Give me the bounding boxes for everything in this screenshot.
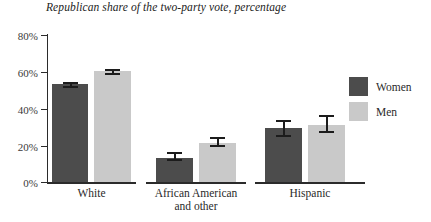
legend-item-women: Women bbox=[349, 74, 411, 99]
y-tick-20 bbox=[41, 146, 47, 147]
legend: Women Men bbox=[349, 74, 411, 124]
y-tick-40 bbox=[41, 109, 47, 110]
baseline-white bbox=[47, 182, 136, 184]
bar-hispanic-women bbox=[265, 34, 302, 182]
bar-rect bbox=[199, 143, 236, 182]
bar-rect bbox=[156, 158, 193, 182]
y-tick-80 bbox=[41, 35, 47, 36]
legend-label-women: Women bbox=[376, 81, 411, 93]
errorbar-stem bbox=[283, 120, 285, 136]
category-label-line1: Hispanic bbox=[255, 187, 365, 200]
bar-white-men bbox=[94, 34, 131, 182]
category-label-line1: African American bbox=[141, 187, 251, 200]
errorbar-stem bbox=[217, 137, 219, 146]
category-label-white: White bbox=[47, 187, 136, 200]
legend-label-men: Men bbox=[376, 106, 397, 118]
bar-rect bbox=[308, 125, 345, 182]
errorbar-stem bbox=[174, 152, 176, 160]
plot-area: 80% 60% 40% 20% 0% bbox=[0, 0, 431, 222]
legend-swatch-men bbox=[349, 102, 368, 121]
errorbar-stem bbox=[326, 115, 328, 132]
bar-african-american-women bbox=[156, 34, 193, 182]
bar-african-american-men bbox=[199, 34, 236, 182]
bar-hispanic-men bbox=[308, 34, 345, 182]
y-tick-label-20: 20% bbox=[4, 141, 38, 153]
bar-white-women bbox=[52, 34, 88, 182]
category-label-line2: and other bbox=[141, 200, 251, 213]
y-tick-label-40: 40% bbox=[4, 104, 38, 116]
baseline-african-american bbox=[146, 182, 246, 184]
bar-rect bbox=[94, 71, 131, 182]
legend-item-men: Men bbox=[349, 99, 411, 124]
y-axis-line bbox=[47, 34, 48, 183]
bar-rect bbox=[52, 84, 88, 182]
y-tick-60 bbox=[41, 72, 47, 73]
category-label-african-american: African American and other bbox=[141, 187, 251, 213]
y-tick-label-60: 60% bbox=[4, 67, 38, 79]
chart-page: Republican share of the two-party vote, … bbox=[0, 0, 431, 222]
errorbar-stem bbox=[70, 82, 72, 87]
legend-swatch-women bbox=[349, 77, 368, 96]
baseline-hispanic bbox=[255, 182, 365, 184]
category-label-line1: White bbox=[47, 187, 136, 200]
category-label-hispanic: Hispanic bbox=[255, 187, 365, 200]
errorbar-stem bbox=[112, 69, 114, 74]
y-tick-label-0: 0% bbox=[4, 177, 38, 189]
y-tick-label-80: 80% bbox=[4, 30, 38, 42]
